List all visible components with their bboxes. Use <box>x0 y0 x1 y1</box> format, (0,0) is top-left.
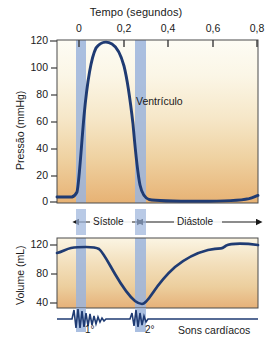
pressure-y-ticks <box>50 41 57 202</box>
pressure-panel <box>50 40 258 203</box>
x-tick-label-0: 0 <box>64 22 94 34</box>
pressure-tick-20: 20 <box>22 169 48 181</box>
x-tick-label-3: 0,6 <box>198 22 228 34</box>
second-sound-band-pressure <box>135 40 146 203</box>
systole-label: Sístole <box>93 216 124 227</box>
ventricle-curve-label: Ventrículo <box>136 95 183 107</box>
second-sound-band-volume <box>135 238 146 308</box>
first-heart-sound-label: 1° <box>85 324 95 335</box>
pressure-tick-120: 120 <box>22 34 48 46</box>
pressure-plot-background <box>57 40 258 203</box>
second-heart-sound-label: 2° <box>145 324 155 335</box>
first-sound-band-phasebar <box>76 209 86 235</box>
heart-sounds-label: Sons cardíacos <box>178 324 250 336</box>
second-sound-band-phasebar <box>135 209 146 235</box>
x-tick-label-1: 0,2 <box>109 22 139 34</box>
x-tick-label-2: 0,4 <box>153 22 183 34</box>
pressure-tick-0: 0 <box>22 195 48 207</box>
volume-panel <box>50 238 258 308</box>
volume-axis-title: Volume (mL) <box>14 245 26 305</box>
chart-title: Tempo (segundos) <box>0 6 272 18</box>
x-tick-label-4: 0,8 <box>242 22 272 34</box>
pressure-tick-100: 100 <box>22 61 48 73</box>
volume-plot-background <box>57 238 258 308</box>
diastole-label: Diástole <box>177 216 213 227</box>
pressure-axis-title: Pressão (mmHg) <box>14 91 26 170</box>
